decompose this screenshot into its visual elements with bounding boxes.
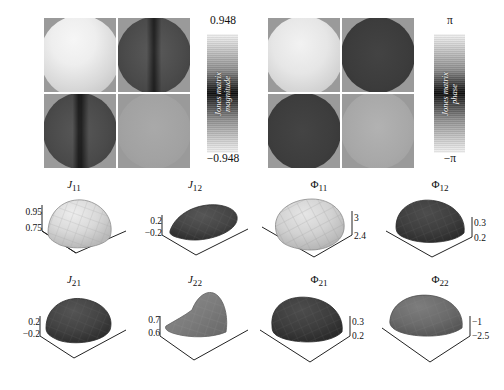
surface-plot-J12: J12 0.2 −0.2 bbox=[136, 178, 254, 273]
Phi12-phase-image bbox=[342, 18, 414, 92]
phase-image-matrix-block bbox=[268, 18, 414, 168]
phase-colorbar-min-label: −π bbox=[390, 152, 504, 164]
surface-plot-J21: J21 0.2 −0.2 bbox=[14, 273, 134, 373]
phase-colorbar-max-label: π bbox=[390, 14, 504, 26]
disk bbox=[268, 18, 340, 92]
surface-plot-Phi12-tick-low: 0.2 bbox=[474, 233, 504, 243]
surface-plot-Phi21-canvas bbox=[256, 286, 382, 374]
phase-colorbar-title: Jones matrix phase bbox=[441, 72, 458, 116]
surface-plot-J22-tick-high: 0.7 bbox=[120, 315, 160, 325]
surface-plot-Phi11-symbol: Φ bbox=[311, 178, 319, 190]
J12-magnitude-image bbox=[118, 18, 190, 92]
surface-plot-J22-tick-low: 0.6 bbox=[120, 328, 160, 338]
surface-plot-J22: J22 0.7 0.6 bbox=[136, 273, 254, 373]
magnitude-colorbar-title-line1: Jones matrix bbox=[214, 72, 223, 116]
phase-colorbar-title-line2: phase bbox=[450, 72, 459, 116]
disk bbox=[118, 18, 190, 92]
phase-colorbar-title-line1: Jones matrix bbox=[441, 72, 450, 116]
surface-plot-Phi12: Φ12 0.3 0.2 bbox=[380, 178, 500, 273]
surface-plot-Phi22-tick-low: −2.5 bbox=[472, 331, 504, 341]
surface-plot-Phi12-tick-high: 0.3 bbox=[474, 218, 504, 228]
magnitude-colorbar: Jones matrix magnitude bbox=[207, 34, 238, 153]
disk bbox=[44, 94, 116, 168]
magnitude-colorbar-min-label: −0.948 bbox=[163, 152, 283, 164]
surface-plot-Phi11: Φ11 3 2.4 bbox=[256, 178, 382, 273]
magnitude-colorbar-max-label: 0.948 bbox=[163, 14, 283, 26]
disk bbox=[342, 18, 414, 92]
Phi21-phase-image bbox=[268, 94, 340, 168]
surface-plot-Phi21: Φ21 0.3 0.2 bbox=[256, 273, 382, 373]
phase-image-matrix bbox=[268, 18, 414, 168]
surface-plot-J21-tick-high: 0.2 bbox=[0, 317, 40, 327]
Phi11-phase-image bbox=[268, 18, 340, 92]
figure-root: 0.948 Jones matrix magnitude −0.948 bbox=[0, 0, 504, 390]
J21-magnitude-image bbox=[44, 94, 116, 168]
surface-plot-J11-tick-low: 0.75 bbox=[0, 223, 42, 233]
magnitude-colorbar-title-line2: magnitude bbox=[223, 72, 232, 116]
surface-plot-J11: J11 0.95 0.75 bbox=[14, 178, 134, 273]
disk bbox=[44, 18, 116, 92]
J11-magnitude-image bbox=[44, 18, 116, 92]
surface-plot-Phi22-tick-high: −1 bbox=[472, 317, 504, 327]
disk bbox=[268, 94, 340, 168]
phase-colorbar: Jones matrix phase bbox=[434, 34, 465, 153]
magnitude-colorbar-title: Jones matrix magnitude bbox=[214, 72, 231, 116]
magnitude-image-matrix bbox=[44, 18, 190, 168]
surface-plot-J21-tick-low: −0.2 bbox=[0, 329, 40, 339]
surface-plot-J11-tick-high: 0.95 bbox=[0, 207, 42, 217]
surface-plot-Phi22-canvas bbox=[380, 286, 500, 374]
surface-plot-J12-tick-high: 0.2 bbox=[120, 216, 162, 226]
surface-plot-J12-tick-low: −0.2 bbox=[120, 228, 162, 238]
magnitude-image-matrix-block bbox=[44, 18, 190, 168]
surface-plot-Phi22: Φ22 −1 −2.5 bbox=[380, 273, 500, 373]
